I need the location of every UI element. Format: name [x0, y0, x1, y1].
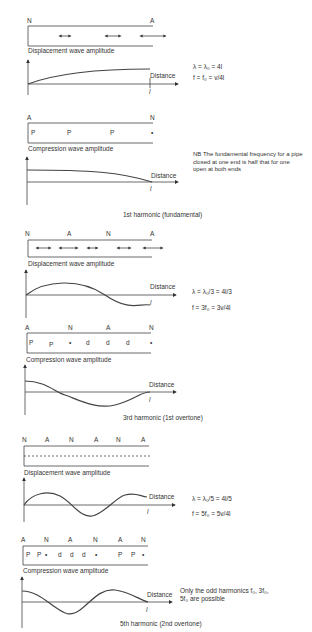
node-label: N: [106, 231, 111, 238]
marker: P: [29, 340, 33, 347]
node-label: N: [27, 18, 32, 25]
marker: P: [49, 342, 53, 349]
node-label: A: [25, 325, 29, 332]
node-label: A: [21, 537, 25, 544]
displacement-label: Displacement wave amplitude: [28, 48, 114, 55]
marker: •: [142, 552, 144, 559]
node-label: A: [150, 231, 154, 238]
formula-wavelength: λ = λ₀/5 = 4l/5: [192, 496, 232, 503]
node-label: A: [106, 325, 110, 332]
harmonic-title: 1st harmonic (fundamental): [123, 212, 202, 219]
harmonic-title: 5th harmonic (2nd overtone): [120, 621, 202, 628]
marker: P: [31, 130, 35, 137]
marker: •: [151, 130, 153, 137]
node-label: N: [25, 231, 30, 238]
axis-label: Distance: [150, 284, 175, 291]
node-label: A: [67, 231, 71, 238]
length-label: l: [147, 509, 148, 516]
node-label: N: [68, 325, 73, 332]
node-label: N: [150, 115, 155, 122]
node-label: N: [93, 537, 98, 544]
formula-frequency: f = 3f₀ = 3v/4l: [192, 305, 230, 312]
length-label: l: [146, 607, 147, 614]
marker: d: [86, 340, 90, 347]
marker: P: [37, 552, 41, 559]
axis-label: Distance: [149, 382, 174, 389]
node-label: A: [68, 537, 72, 544]
node-label: A: [150, 18, 154, 25]
compression-label: Compression wave amplitude: [28, 146, 113, 153]
marker: •: [150, 340, 152, 347]
marker: •: [95, 552, 97, 559]
note-odd-harmonics: Only the odd harmonics f₀, 3f₀, 5f₀ are …: [180, 587, 275, 603]
marker: P: [26, 552, 30, 559]
node-label: A: [27, 115, 31, 122]
marker: •: [45, 552, 47, 559]
node-label: A: [94, 437, 98, 444]
node-label: N: [22, 437, 27, 444]
length-label: l: [150, 300, 151, 307]
marker: P: [118, 552, 122, 559]
axis-label: Distance: [147, 592, 172, 599]
axis-label: Distance: [151, 173, 176, 180]
marker: d: [106, 340, 110, 347]
node-label: A: [141, 437, 145, 444]
axis-label: Distance: [149, 494, 174, 501]
marker: •: [69, 340, 71, 347]
node-label: N: [116, 437, 121, 444]
axis-label: Distance: [150, 73, 175, 80]
displacement-label: Displacement wave amplitude: [24, 470, 110, 477]
formula-wavelength: λ = λ₀ = 4l: [193, 64, 222, 71]
compression-label: Compression wave amplitude: [26, 357, 111, 364]
length-label: l: [149, 397, 150, 404]
marker: P: [110, 130, 114, 137]
node-label: A: [45, 437, 49, 444]
node-label: A: [118, 537, 122, 544]
length-label: l: [150, 186, 151, 193]
marker: P: [67, 130, 71, 137]
compression-label: Compression wave amplitude: [23, 568, 108, 575]
marker: P: [131, 552, 135, 559]
formula-wavelength: λ = λ₀/3 = 4l/3: [192, 289, 232, 296]
displacement-label: Displacement wave amplitude: [28, 261, 114, 268]
node-label: N: [44, 537, 49, 544]
marker: d: [82, 552, 86, 559]
harmonic-title: 3rd harmonic (1st overtone): [123, 415, 203, 422]
marker: d: [126, 340, 130, 347]
note-fundamental: NB The fundamental frequency for a pipe …: [193, 151, 303, 174]
node-label: N: [141, 537, 146, 544]
formula-frequency: f = f₀ = v/4l: [193, 75, 224, 82]
node-label: N: [69, 437, 74, 444]
node-label: N: [149, 325, 154, 332]
marker: d: [58, 552, 62, 559]
formula-frequency: f = 5f₀ = 5v/4l: [192, 511, 230, 518]
marker: d: [70, 552, 74, 559]
length-label: l: [149, 89, 150, 96]
